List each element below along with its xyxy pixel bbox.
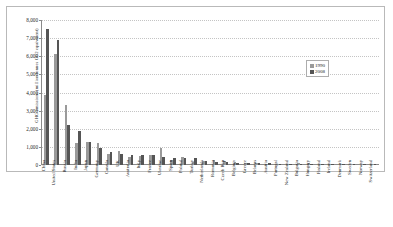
- bar-group: [94, 20, 105, 165]
- x-tick-label: Netherlands: [199, 160, 204, 183]
- x-tick-label: Japan: [83, 160, 88, 171]
- x-tick-label: Germany: [94, 160, 99, 177]
- x-tick-label: Belarus: [252, 160, 257, 174]
- bar-group: [115, 20, 126, 165]
- x-tick-label: Australia: [125, 160, 130, 177]
- bar-group: [83, 20, 94, 165]
- chart-frame: GHG emissions (million tonnes CO2 equiva…: [6, 6, 385, 172]
- x-tick-label: UK: [115, 160, 120, 167]
- y-tick-label: 3,000: [26, 108, 38, 114]
- bar-group: [210, 20, 221, 165]
- bar-group: [126, 20, 137, 165]
- x-tick-label: Portugal: [273, 160, 278, 176]
- x-tick-label: Ukraine: [157, 160, 162, 175]
- bar-group: [358, 20, 369, 165]
- bar-group: [52, 20, 63, 165]
- x-tick-label: Ireland: [326, 160, 331, 173]
- bar-group: [337, 20, 348, 165]
- y-tick-label: 7,000: [26, 35, 38, 41]
- x-tick-label: Turkey: [189, 160, 194, 173]
- x-tick-label: Sweden: [347, 160, 352, 175]
- bar: [374, 164, 377, 165]
- y-tick-label: 2,000: [26, 126, 38, 132]
- x-tick-label: Norway: [358, 160, 363, 175]
- bar: [57, 40, 60, 165]
- x-tick-label: Switzerland: [368, 160, 373, 182]
- bar-group: [62, 20, 73, 165]
- bar-group: [368, 20, 379, 165]
- x-tick-label: Italy: [136, 160, 141, 169]
- x-tick-label: Finland: [316, 160, 321, 174]
- legend-item: 2008: [310, 69, 326, 75]
- bar-group: [199, 20, 210, 165]
- bar-group: [326, 20, 337, 165]
- legend-swatch: [310, 70, 314, 74]
- bar-group: [178, 20, 189, 165]
- plot-area: 01,0002,0003,0004,0005,0006,0007,0008,00…: [41, 20, 379, 165]
- bar-group: [252, 20, 263, 165]
- bar-group: [273, 20, 284, 165]
- bar-group: [157, 20, 168, 165]
- bar-group: [168, 20, 179, 165]
- x-tick-label: China: [41, 160, 46, 171]
- x-tick-label: India: [73, 160, 78, 170]
- y-tick-label: 4,000: [26, 90, 38, 96]
- x-tick-label: Hungary: [305, 160, 310, 176]
- bar-group: [41, 20, 52, 165]
- x-tick-label: New Zealand: [284, 160, 289, 185]
- x-tick-label: Poland: [178, 160, 183, 173]
- y-tick-label: 6,000: [26, 53, 38, 59]
- x-tick-label: Denmark: [337, 160, 342, 177]
- bar-group: [316, 20, 327, 165]
- x-tick-label: France: [147, 160, 152, 173]
- bar-group: [305, 20, 316, 165]
- legend-swatch: [310, 64, 314, 68]
- bar-group: [147, 20, 158, 165]
- bar-groups: [41, 20, 379, 165]
- x-tick-label: United States: [51, 160, 56, 185]
- x-tick-label: Canada: [104, 160, 109, 174]
- chart-legend: 19902008: [306, 60, 329, 77]
- bar-group: [295, 20, 306, 165]
- bar-group: [347, 20, 358, 165]
- x-tick-label: Bulgaria: [294, 160, 299, 176]
- x-tick-label: Austria: [263, 160, 268, 174]
- x-tick-label: Romania: [210, 160, 215, 177]
- chart-page: GHG emissions (million tonnes CO2 equiva…: [0, 0, 393, 227]
- bar-group: [189, 20, 200, 165]
- y-tick-label: 1,000: [26, 144, 38, 150]
- bar-group: [263, 20, 274, 165]
- y-tick-label: 5,000: [26, 71, 38, 77]
- bar-group: [136, 20, 147, 165]
- x-tick-label: Belgium: [231, 160, 236, 176]
- bar-group: [284, 20, 295, 165]
- bar-group: [221, 20, 232, 165]
- bar-group: [231, 20, 242, 165]
- x-axis-labels: ChinaUnited StatesRussiaIndiaJapanGerman…: [34, 160, 372, 226]
- bar: [46, 29, 49, 165]
- bar-group: [73, 20, 84, 165]
- x-tick-label: Russia: [62, 160, 67, 173]
- x-tick-label: Greece: [242, 160, 247, 173]
- bar-group: [242, 20, 253, 165]
- x-tick-label: Spain: [168, 160, 173, 171]
- y-tick-label: 8,000: [26, 17, 38, 23]
- x-tick-label: Czech Rep: [220, 160, 225, 180]
- bar-group: [104, 20, 115, 165]
- legend-label: 2008: [315, 69, 325, 75]
